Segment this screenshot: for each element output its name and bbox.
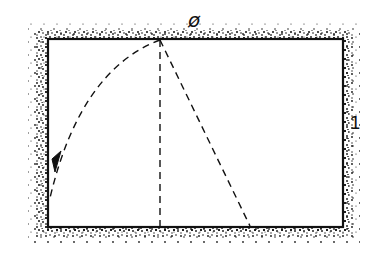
angle-label: ø: [188, 8, 200, 32]
geometry-diagram: [0, 0, 378, 259]
side-length-label: 1: [350, 113, 361, 133]
rectangle-outline: [48, 39, 343, 227]
